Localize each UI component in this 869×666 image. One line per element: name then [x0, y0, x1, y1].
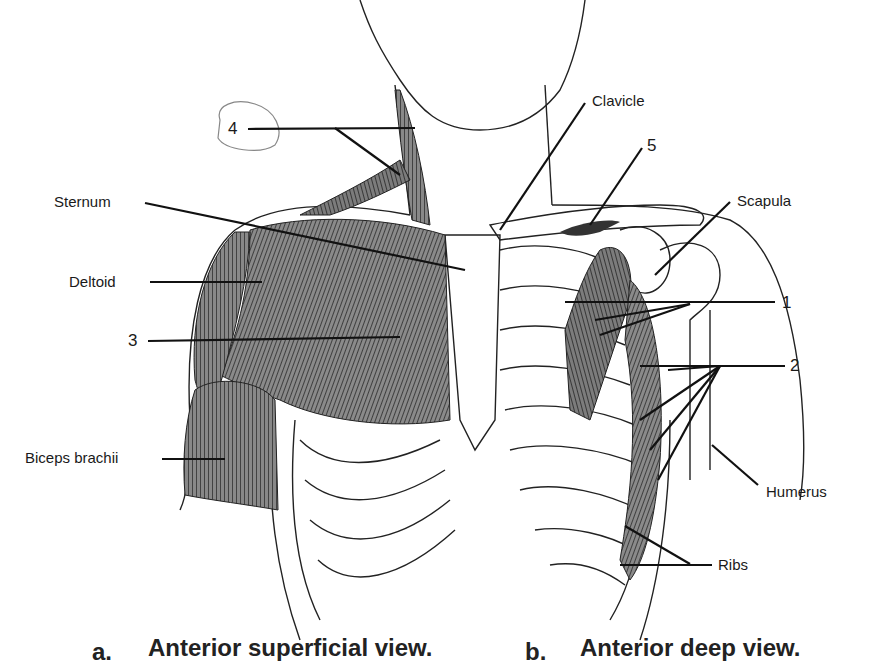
label-humerus: Humerus	[766, 484, 827, 499]
label-clavicle: Clavicle	[592, 93, 645, 108]
label-1: 1	[782, 294, 791, 311]
caption-b-letter: b.	[525, 640, 546, 664]
label-sternum: Sternum	[54, 194, 111, 209]
caption-a-letter: a.	[92, 640, 112, 664]
label-5: 5	[647, 137, 656, 154]
label-3: 3	[128, 332, 137, 349]
biceps-muscle	[184, 381, 278, 510]
label-4: 4	[228, 120, 237, 137]
label-ribs: Ribs	[718, 557, 748, 572]
caption-a-text: Anterior superficial view.	[148, 636, 433, 660]
label-scapula: Scapula	[737, 193, 791, 208]
label-2: 2	[790, 357, 799, 374]
trapezius-muscle	[300, 160, 410, 215]
label-deltoid: Deltoid	[69, 274, 116, 289]
pectoralis-minor	[565, 247, 631, 420]
label-biceps-brachii: Biceps brachii	[25, 450, 118, 465]
caption-b-text: Anterior deep view.	[580, 636, 801, 660]
